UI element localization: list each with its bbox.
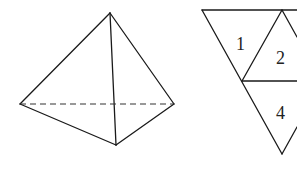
net-inner-right-edge bbox=[282, 10, 297, 37]
face-label-1: 1 bbox=[236, 34, 245, 54]
net-inner-left-edge bbox=[242, 10, 282, 81]
edge-apex-left bbox=[20, 13, 110, 104]
tetrahedron bbox=[20, 13, 174, 145]
net-bottom-right-edge bbox=[282, 127, 297, 154]
edge-apex-front bbox=[110, 13, 116, 145]
face-label-4: 4 bbox=[276, 103, 285, 123]
net: 1 2 4 bbox=[202, 10, 297, 154]
edge-base-left bbox=[20, 104, 116, 145]
figure-canvas: 1 2 4 bbox=[0, 0, 297, 171]
edge-base-right bbox=[116, 104, 174, 145]
edge-apex-right bbox=[110, 13, 174, 104]
face-label-2: 2 bbox=[276, 48, 285, 68]
